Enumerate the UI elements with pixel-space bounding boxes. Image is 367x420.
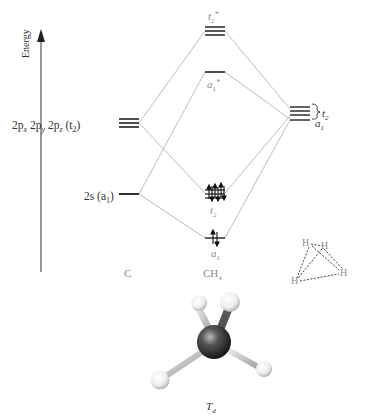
hydrogen-atom: [151, 371, 170, 390]
hydrogen-t2-label: t2: [322, 107, 329, 122]
methane-ball-and-stick-model: [151, 292, 273, 390]
h-atom-label: H: [291, 275, 298, 286]
h-atom-label: H: [302, 237, 309, 248]
hydrogen-atom: [220, 292, 240, 312]
point-group-label: Td: [206, 400, 216, 415]
carbon-2p-label: 2px 2py 2pz (t2): [12, 119, 80, 134]
ch4-t2-star-level: [205, 27, 225, 35]
ch4-a1-star-label: a1*: [207, 78, 220, 93]
ch4-t2-label: t2: [210, 204, 217, 219]
hydrogen-tetrahedron: H H H H: [291, 237, 347, 286]
hydrogen-atom: [191, 295, 207, 311]
arrow-up-icon: [37, 29, 45, 42]
energy-axis: Energy: [20, 29, 45, 272]
h-atom-label: H: [321, 240, 328, 251]
hydrogen-a1-label: a1: [315, 117, 324, 132]
mo-diagram: Energy 2px 2py 2pz (t2) 2s (a1) t2*: [0, 0, 367, 420]
ch4-a1-label: a1: [211, 247, 220, 262]
methane-column-label: CH4: [203, 267, 222, 282]
hydrogen-t2-level: [290, 107, 310, 115]
correlation-lines: [139, 31, 290, 238]
carbon-2p-level: [119, 119, 139, 127]
carbon-column-label: C: [124, 267, 131, 279]
carbon-atom: [197, 325, 231, 359]
energy-axis-label: Energy: [20, 29, 31, 58]
h-atom-label: H: [340, 267, 347, 278]
hydrogen-atom: [256, 361, 272, 377]
ch4-t2-star-label: t2*: [208, 10, 219, 25]
carbon-2s-label: 2s (a1): [84, 190, 114, 205]
